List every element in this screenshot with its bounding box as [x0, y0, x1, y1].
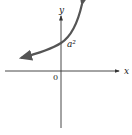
origin-label: 0: [53, 74, 58, 82]
y-intercept-label: a²: [67, 40, 76, 49]
y-axis-label: y: [59, 6, 64, 15]
graph-figure: [0, 0, 132, 135]
x-axis-label: x: [124, 67, 129, 76]
exponential-curve: [21, 4, 82, 58]
